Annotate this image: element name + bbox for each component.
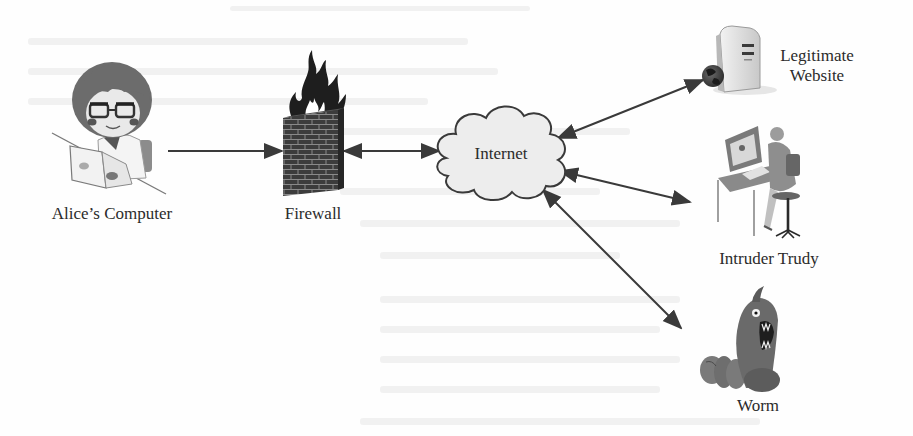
figure-canvas: Alice’s Computer Firewall Internet Legit… bbox=[0, 0, 913, 436]
server-globe-icon bbox=[702, 26, 777, 95]
edge-internet-website bbox=[558, 80, 703, 138]
label-internet: Internet bbox=[475, 144, 528, 164]
label-intruder-trudy: Intruder Trudy bbox=[719, 249, 819, 269]
person-laptop-icon bbox=[52, 62, 166, 194]
burning-brick-wall-icon bbox=[283, 50, 346, 196]
label-worm: Worm bbox=[737, 396, 779, 416]
edge-internet-trudy bbox=[560, 171, 690, 202]
label-website-line2: Website bbox=[780, 66, 854, 86]
person-at-desk-icon bbox=[718, 126, 800, 238]
label-legitimate-website: Legitimate Website bbox=[780, 46, 854, 86]
edge-internet-worm bbox=[543, 190, 681, 328]
label-legitimate-line1: Legitimate bbox=[780, 46, 854, 66]
label-firewall: Firewall bbox=[285, 204, 342, 224]
worm-monster-icon bbox=[700, 286, 780, 392]
label-alice-computer: Alice’s Computer bbox=[52, 204, 172, 224]
